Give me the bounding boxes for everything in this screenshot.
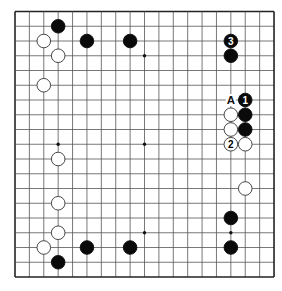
black-stone — [224, 211, 238, 225]
star-point — [229, 231, 232, 234]
move-number-label: 3 — [228, 36, 234, 47]
black-stone — [238, 123, 252, 137]
black-stone — [224, 241, 238, 255]
white-stone — [37, 241, 51, 255]
go-board-diagram: 312 A — [0, 0, 282, 291]
black-stone — [80, 241, 94, 255]
white-stone: 2 — [224, 137, 238, 151]
black-stone — [238, 108, 252, 122]
star-point — [143, 54, 146, 57]
white-stone — [224, 108, 238, 122]
black-stone — [51, 19, 65, 33]
white-stone — [51, 152, 65, 166]
star-point — [143, 143, 146, 146]
move-number-label: 1 — [242, 95, 248, 106]
black-stone: 1 — [238, 93, 252, 107]
black-stone — [80, 34, 94, 48]
black-stone — [51, 255, 65, 269]
white-stone — [51, 226, 65, 240]
markers-layer: A — [226, 94, 236, 106]
white-stone — [51, 49, 65, 63]
white-stone — [37, 34, 51, 48]
black-stone — [123, 34, 137, 48]
black-stone — [123, 241, 137, 255]
star-point — [56, 143, 59, 146]
star-point — [143, 231, 146, 234]
black-stone — [224, 49, 238, 63]
white-stone — [37, 78, 51, 92]
black-stone: 3 — [224, 34, 238, 48]
white-stone — [238, 182, 252, 196]
white-stone — [238, 137, 252, 151]
point-marker-label: A — [227, 94, 235, 106]
white-stone — [51, 196, 65, 210]
move-number-label: 2 — [228, 139, 234, 150]
white-stone — [224, 123, 238, 137]
